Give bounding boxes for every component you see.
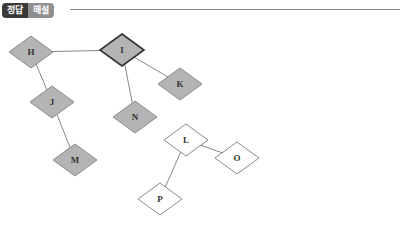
node-M: M bbox=[53, 144, 97, 176]
node-K: K bbox=[158, 68, 202, 100]
node-J: J bbox=[30, 86, 74, 118]
node-label: M bbox=[71, 155, 80, 165]
node-label: J bbox=[50, 97, 55, 107]
node-label: H bbox=[27, 47, 34, 57]
node-I: I bbox=[100, 34, 144, 66]
node-O: O bbox=[215, 142, 259, 174]
node-label: N bbox=[132, 112, 139, 122]
node-label: O bbox=[233, 153, 240, 163]
node-label: I bbox=[120, 45, 124, 55]
node-H: H bbox=[9, 36, 53, 68]
node-N: N bbox=[113, 101, 157, 133]
node-L: L bbox=[164, 124, 208, 156]
node-P: P bbox=[138, 183, 182, 215]
graph-diagram: HIKJNMLOP bbox=[0, 0, 400, 225]
node-label: P bbox=[157, 194, 163, 204]
node-label: L bbox=[183, 135, 189, 145]
node-label: K bbox=[176, 79, 183, 89]
